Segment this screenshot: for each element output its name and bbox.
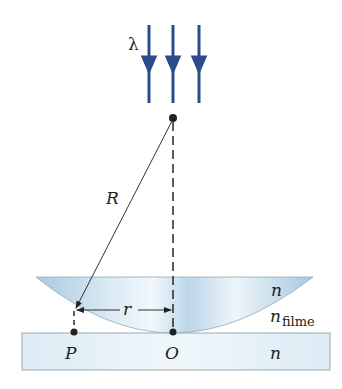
lens-index-label: n bbox=[271, 282, 282, 299]
newtons-rings-diagram bbox=[0, 0, 342, 389]
plate-index-label: n bbox=[270, 345, 281, 362]
center-of-curvature-dot bbox=[169, 114, 177, 122]
wavelength-label: λ bbox=[128, 36, 139, 53]
film-index-label: nfilme bbox=[270, 308, 315, 325]
film-index-subscript: filme bbox=[282, 314, 315, 329]
point-o-label: O bbox=[165, 345, 179, 362]
radius-label: R bbox=[106, 190, 119, 207]
point-o-dot bbox=[170, 329, 177, 336]
ring-radius-label: r bbox=[123, 301, 131, 318]
point-p-dot bbox=[71, 329, 78, 336]
film-index-symbol: n bbox=[270, 306, 281, 326]
point-p-label: P bbox=[65, 345, 76, 362]
incident-light-rays bbox=[143, 25, 205, 103]
